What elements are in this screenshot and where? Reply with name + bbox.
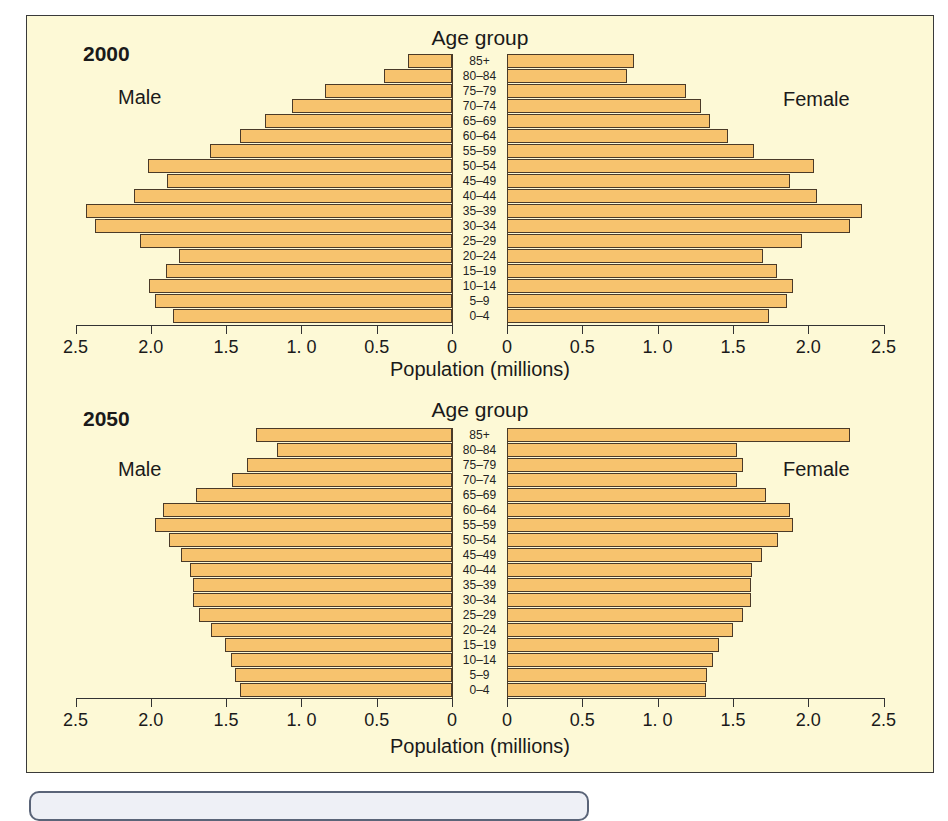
axis-tick-label: 2.5 xyxy=(51,710,101,731)
bottom-caption-box xyxy=(29,791,589,821)
zero-line xyxy=(452,428,453,698)
bar-female xyxy=(507,683,706,697)
bar-female xyxy=(507,668,707,682)
bar-male xyxy=(225,638,452,652)
axis-tick-label: 0.5 xyxy=(557,710,607,731)
age-group-label: 30–34 xyxy=(452,593,507,608)
bar-female xyxy=(507,518,793,532)
axis-tick-label: 2.0 xyxy=(783,710,833,731)
bar-female xyxy=(507,443,737,457)
age-group-label: 25–29 xyxy=(452,608,507,623)
bar-male xyxy=(240,683,452,697)
bar-female xyxy=(507,608,743,622)
axis-tick xyxy=(658,698,659,707)
bar-female xyxy=(507,623,733,637)
bar-male xyxy=(190,563,452,577)
male-axis-line xyxy=(76,698,453,699)
age-group-label: 10–14 xyxy=(452,653,507,668)
age-group-label: 40–44 xyxy=(452,563,507,578)
axis-tick-label: 1.5 xyxy=(201,710,251,731)
age-group-label: 50–54 xyxy=(452,533,507,548)
bar-male xyxy=(163,503,452,517)
axis-tick xyxy=(151,698,152,707)
bar-male xyxy=(181,548,452,562)
bar-female xyxy=(507,488,766,502)
bar-female xyxy=(507,563,752,577)
axis-tick-label: 1. 0 xyxy=(276,710,326,731)
axis-tick xyxy=(226,698,227,707)
bar-female xyxy=(507,578,751,592)
axis-tick xyxy=(733,698,734,707)
bar-female xyxy=(507,593,751,607)
age-group-label: 55–59 xyxy=(452,518,507,533)
bar-male xyxy=(231,653,452,667)
age-group-label: 0–4 xyxy=(452,683,507,698)
axis-tick-label: 2.5 xyxy=(859,710,909,731)
bar-male xyxy=(199,608,452,622)
axis-tick-label: 0.5 xyxy=(352,710,402,731)
age-group-label: 85+ xyxy=(452,428,507,443)
male-label: Male xyxy=(118,458,161,481)
bar-male xyxy=(235,668,452,682)
axis-tick xyxy=(582,698,583,707)
bar-female xyxy=(507,653,713,667)
bar-female xyxy=(507,533,778,547)
year-title: 2050 xyxy=(83,407,130,431)
bar-male xyxy=(169,533,452,547)
bar-male xyxy=(211,623,452,637)
age-group-title: Age group xyxy=(400,398,560,422)
age-group-label: 15–19 xyxy=(452,638,507,653)
axis-tick xyxy=(377,698,378,707)
bar-male xyxy=(196,488,452,502)
female-axis-line xyxy=(507,698,884,699)
bar-female xyxy=(507,548,762,562)
axis-tick xyxy=(452,698,453,707)
axis-tick-label: 1. 0 xyxy=(633,710,683,731)
age-group-label: 80–84 xyxy=(452,443,507,458)
axis-tick xyxy=(884,698,885,707)
bar-female xyxy=(507,428,850,442)
pyramid-2050: 2050 Age group Male Female 85+80–8475–79… xyxy=(0,0,948,380)
bar-male xyxy=(232,473,452,487)
axis-tick-label: 2.0 xyxy=(126,710,176,731)
bar-female xyxy=(507,473,737,487)
female-label: Female xyxy=(783,458,850,481)
axis-tick-label: 0 xyxy=(482,710,532,731)
axis-tick xyxy=(76,698,77,707)
axis-tick xyxy=(808,698,809,707)
age-group-label: 5–9 xyxy=(452,668,507,683)
bar-male xyxy=(155,518,452,532)
axis-tick-label: 1.5 xyxy=(708,710,758,731)
age-group-label: 75–79 xyxy=(452,458,507,473)
bar-male xyxy=(247,458,452,472)
bar-male xyxy=(256,428,452,442)
bar-male xyxy=(193,578,452,592)
age-group-label: 45–49 xyxy=(452,548,507,563)
age-group-label: 65–69 xyxy=(452,488,507,503)
x-axis-title: Population (millions) xyxy=(300,735,660,758)
bar-male xyxy=(193,593,452,607)
age-group-label: 35–39 xyxy=(452,578,507,593)
axis-tick xyxy=(301,698,302,707)
age-group-label: 70–74 xyxy=(452,473,507,488)
bar-female xyxy=(507,503,790,517)
bar-female xyxy=(507,458,743,472)
age-group-label: 20–24 xyxy=(452,623,507,638)
zero-line xyxy=(507,428,508,698)
axis-tick-label: 0 xyxy=(427,710,477,731)
axis-tick xyxy=(507,698,508,707)
bar-male xyxy=(277,443,452,457)
bar-female xyxy=(507,638,719,652)
age-group-label: 60–64 xyxy=(452,503,507,518)
